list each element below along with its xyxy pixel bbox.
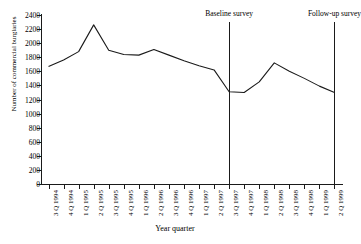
y-tick-mark: [37, 156, 41, 157]
x-tick-label: 2 Q 1998: [277, 190, 285, 216]
y-tick-mark: [37, 85, 41, 86]
x-tick-label: 2 Q 1997: [217, 190, 225, 216]
y-axis-tick-labels: 0200400600800100012001400160018002000220…: [0, 0, 40, 244]
x-tick-mark: [184, 185, 185, 189]
annotation-label: Follow-up survey: [308, 9, 361, 18]
x-tick-label: 2 Q 1999: [337, 190, 345, 216]
y-tick-mark: [37, 184, 41, 185]
annotation-line: [229, 22, 230, 185]
y-tick-mark: [37, 170, 41, 171]
y-tick-mark: [37, 100, 41, 101]
x-tick-label: 4 Q 1997: [247, 190, 255, 216]
x-tick-mark: [274, 185, 275, 189]
y-tick-mark: [37, 142, 41, 143]
x-tick-mark: [64, 185, 65, 189]
x-tick-mark: [229, 185, 230, 189]
x-tick-label: 3 Q 1997: [232, 190, 240, 216]
x-tick-mark: [94, 185, 95, 189]
annotation-label: Baseline survey: [205, 9, 253, 18]
x-tick-mark: [109, 185, 110, 189]
y-tick-mark: [37, 15, 41, 16]
x-tick-label: 4 Q 1996: [187, 190, 195, 216]
x-tick-label: 3 Q 1995: [112, 190, 120, 216]
x-tick-label: 4 Q 1998: [307, 190, 315, 216]
x-tick-mark: [244, 185, 245, 189]
x-tick-mark: [139, 185, 140, 189]
x-tick-mark: [289, 185, 290, 189]
series-commercial-burglaries: [41, 15, 342, 184]
x-tick-mark: [304, 185, 305, 189]
annotation-line: [334, 22, 335, 185]
x-tick-mark: [154, 185, 155, 189]
x-tick-label: 1 Q 1999: [322, 190, 330, 216]
x-tick-label: 3 Q 1998: [292, 190, 300, 216]
x-tick-mark: [79, 185, 80, 189]
x-tick-label: 1 Q 1998: [262, 190, 270, 216]
x-tick-mark: [49, 185, 50, 189]
x-tick-mark: [214, 185, 215, 189]
x-tick-label: 4 Q 1994: [67, 190, 75, 216]
x-tick-label: 1 Q 1996: [142, 190, 150, 216]
y-tick-mark: [37, 43, 41, 44]
plot-area: [41, 15, 342, 184]
x-tick-mark: [124, 185, 125, 189]
y-tick-mark: [37, 128, 41, 129]
y-tick-mark: [37, 57, 41, 58]
x-tick-mark: [199, 185, 200, 189]
x-tick-label: 3 Q 1994: [52, 190, 60, 216]
y-tick-mark: [37, 71, 41, 72]
x-tick-label: 4 Q 1995: [127, 190, 135, 216]
x-tick-label: 1 Q 1995: [82, 190, 90, 216]
x-tick-label: 1 Q 1997: [202, 190, 210, 216]
x-tick-label: 3 Q 1996: [172, 190, 180, 216]
y-tick-mark: [37, 29, 41, 30]
y-tick-mark: [37, 114, 41, 115]
x-tick-mark: [169, 185, 170, 189]
x-axis-line: [41, 184, 343, 185]
x-tick-mark: [319, 185, 320, 189]
x-tick-label: 2 Q 1996: [157, 190, 165, 216]
x-axis-title: Year quarter: [0, 224, 350, 233]
x-tick-mark: [259, 185, 260, 189]
x-tick-mark: [334, 185, 335, 189]
x-tick-label: 2 Q 1995: [97, 190, 105, 216]
